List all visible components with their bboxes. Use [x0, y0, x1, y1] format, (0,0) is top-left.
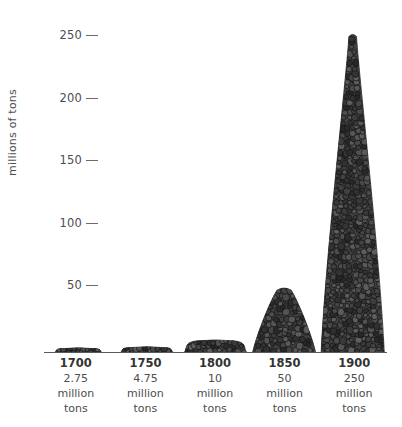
coal-lump [354, 348, 360, 355]
coal-lumps [48, 344, 108, 356]
x-label-amount: 4.75 [111, 371, 181, 386]
x-axis-labels: 1700 2.75 million tons 1750 4.75 million… [41, 356, 389, 416]
x-label-unit-1: million [111, 386, 181, 401]
coal-lump [349, 130, 356, 137]
x-label-unit-2: tons [41, 401, 111, 416]
coal-lump [196, 339, 201, 344]
coal-lump [261, 326, 268, 333]
x-label-unit-2: tons [319, 401, 389, 416]
coal-lump [136, 345, 142, 352]
x-label-unit-1: million [180, 386, 250, 401]
x-label-year: 1850 [250, 356, 320, 371]
coal-production-chart: millions of tons 250 200 150 100 50 1700 [0, 0, 402, 427]
x-label-column-1900: 1900 250 million tons [319, 356, 389, 416]
coal-lump [363, 270, 368, 274]
x-label-unit-1: million [319, 386, 389, 401]
coal-lump [377, 282, 382, 287]
x-label-column-1700: 1700 2.75 million tons [41, 356, 111, 416]
x-label-amount: 2.75 [41, 371, 111, 386]
coal-lump [352, 325, 357, 329]
coal-lump [347, 200, 352, 205]
coal-lump [372, 259, 378, 265]
coal-lump [373, 269, 380, 275]
coal-lump [368, 198, 375, 205]
coal-lump [325, 284, 330, 288]
coal-lump [344, 293, 350, 299]
coal-lumps [248, 285, 322, 355]
coal-lump [336, 170, 342, 175]
coal-lump [344, 283, 349, 288]
coal-lump [95, 347, 101, 353]
coal-lump [255, 343, 261, 350]
x-label-amount: 50 [250, 371, 320, 386]
x-label-amount: 250 [319, 371, 389, 386]
x-label-unit-2: tons [111, 401, 181, 416]
coal-lump [348, 120, 353, 125]
x-label-year: 1750 [111, 356, 181, 371]
coal-lump [223, 339, 228, 344]
coal-lump [328, 304, 333, 308]
x-label-year: 1900 [319, 356, 389, 371]
coal-lump [224, 343, 229, 348]
coal-lump [336, 224, 342, 230]
coal-lump [342, 223, 348, 230]
x-label-amount: 10 [180, 371, 250, 386]
x-label-unit-2: tons [180, 401, 250, 416]
coal-lump [328, 259, 335, 265]
coal-lump [358, 240, 364, 246]
x-label-year: 1800 [180, 356, 250, 371]
coal-lump [273, 339, 277, 343]
coal-lump [175, 347, 183, 355]
coal-lump [335, 178, 341, 183]
coal-lump [103, 347, 108, 352]
coal-lump [332, 323, 337, 328]
coal-lump [344, 125, 350, 131]
coal-lump [352, 168, 357, 173]
x-label-column-1850: 1850 50 million tons [250, 356, 320, 416]
coal-lump [336, 329, 341, 334]
coal-lump [353, 328, 359, 333]
coal-lump [346, 215, 352, 221]
coal-lump [292, 299, 299, 306]
coal-lump [346, 263, 353, 270]
coal-lump [161, 346, 168, 352]
x-label-year: 1700 [41, 356, 111, 371]
coal-lump [288, 316, 296, 324]
coal-lump [362, 166, 367, 171]
x-label-unit-2: tons [250, 401, 320, 416]
x-label-unit-1: million [250, 386, 320, 401]
coal-lump [356, 205, 362, 210]
coal-lump [332, 308, 338, 314]
x-label-column-1750: 1750 4.75 million tons [111, 356, 181, 416]
coal-pile-group [48, 35, 389, 357]
x-label-unit-1: million [41, 386, 111, 401]
x-label-column-1800: 1800 10 million tons [180, 356, 250, 416]
coal-lump [352, 49, 357, 54]
